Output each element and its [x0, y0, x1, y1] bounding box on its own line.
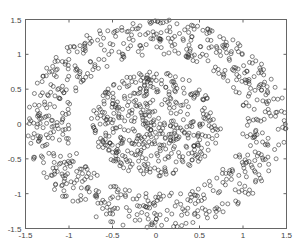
x-tick-label: 0: [154, 231, 159, 240]
x-tick-label: 1.5: [281, 231, 293, 240]
data-points: [26, 18, 288, 229]
y-tick-label: 0: [17, 120, 22, 129]
x-tick-label: -0.5: [106, 231, 120, 240]
y-tick-label: -1: [14, 190, 22, 199]
y-tick-label: 0.5: [10, 85, 22, 94]
y-tick-label: -0.5: [8, 155, 22, 164]
y-tick-label: -1.5: [8, 225, 22, 234]
scatter-chart: -1.5-1-0.500.511.5 1.510.50-0.5-1-1.5: [0, 0, 301, 245]
x-tick-label: 1: [241, 231, 246, 240]
x-tick-label: 0.5: [194, 231, 206, 240]
x-tick-label: -1: [65, 231, 73, 240]
y-tick-label: 1: [17, 50, 22, 59]
x-axis-ticks: -1.5-1-0.500.511.5: [19, 20, 293, 240]
y-tick-label: 1.5: [10, 16, 22, 25]
